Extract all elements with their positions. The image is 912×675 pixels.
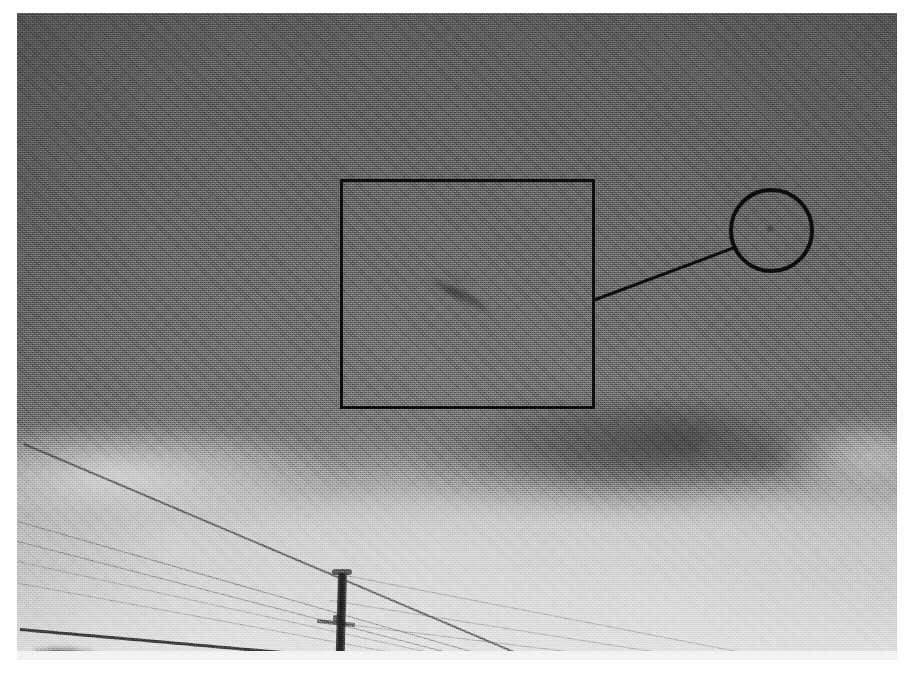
region-of-interest-box [340, 179, 595, 409]
photograph [17, 13, 897, 660]
page-root [0, 0, 912, 675]
magnified-detail-mark [767, 226, 773, 231]
